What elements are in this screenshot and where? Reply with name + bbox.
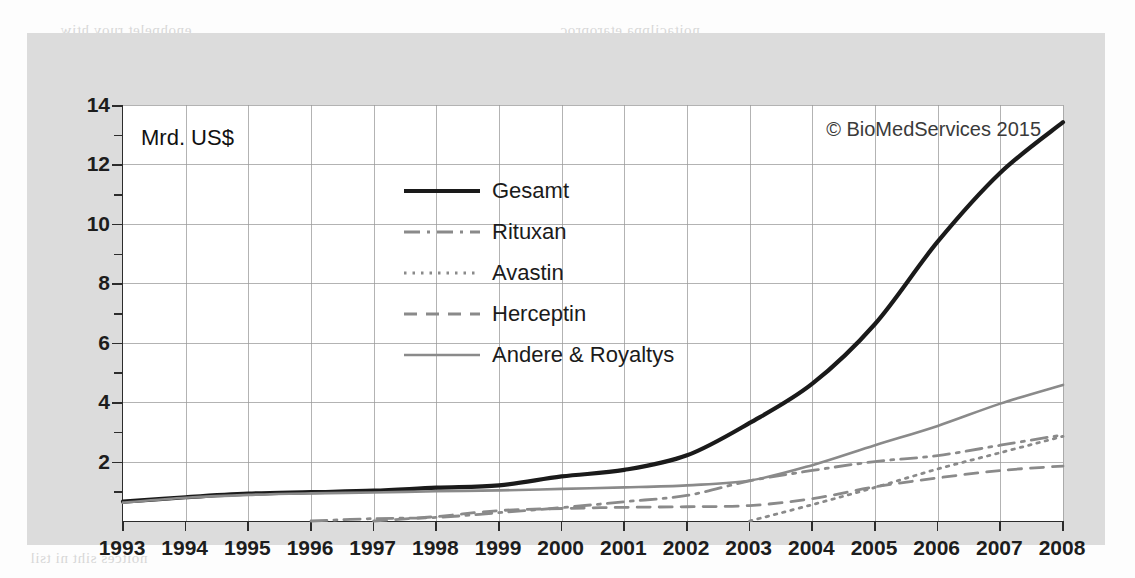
legend-item[interactable]: Andere & Royaltys [404,344,674,366]
x-axis-tick-mark [749,521,751,531]
series-line-herceptin [374,466,1063,521]
x-axis-tick-mark [686,521,688,531]
legend-item-label: Gesamt [492,180,569,202]
x-axis-tick-label: 1997 [338,537,408,558]
legend-line-swatch [404,184,480,198]
x-axis-tick-label: 1995 [212,537,282,558]
legend-line-swatch [404,225,480,239]
x-axis-tick-label: 2004 [776,537,846,558]
legend-item-label: Herceptin [492,303,586,325]
x-axis-tick-mark [1062,521,1064,531]
y-axis-minor-tick-mark [114,491,122,493]
x-axis-tick-label: 1993 [87,537,157,558]
y-axis-minor-tick-mark [114,372,122,374]
x-axis-tick-mark [435,521,437,531]
x-axis-tick-mark [185,521,187,531]
x-axis-tick-label: 2005 [839,537,909,558]
y-axis-tick-label: 2 [66,451,110,472]
legend-item-label: Avastin [492,262,564,284]
y-axis-tick-label: 14 [66,94,110,115]
gridline-vertical [1063,105,1064,521]
y-axis-tick-label: 8 [66,272,110,293]
x-axis-tick-label: 2001 [588,537,658,558]
legend-item[interactable]: Gesamt [404,180,674,202]
x-axis-tick-mark [623,521,625,531]
x-axis-tick-label: 2000 [526,537,596,558]
x-axis-tick-mark [999,521,1001,531]
x-axis-tick-label: 1996 [275,537,345,558]
x-axis-tick-mark [937,521,939,531]
x-axis-tick-mark [122,521,124,531]
series-line-andere-royaltys [123,385,1063,503]
y-axis-tick-label: 12 [66,153,110,174]
legend-item-label: Rituxan [492,221,567,243]
x-axis-tick-label: 1994 [150,537,220,558]
legend-line-swatch [404,348,480,362]
y-axis-minor-tick-mark [114,135,122,137]
x-axis-tick-label: 2008 [1027,537,1097,558]
copyright-notice: © BioMedServices 2015 [826,118,1041,141]
legend-item[interactable]: Avastin [404,262,674,284]
x-axis-tick-mark [310,521,312,531]
x-axis-tick-label: 2007 [964,537,1034,558]
x-axis-tick-mark [498,521,500,531]
y-axis-minor-tick-mark [114,194,122,196]
y-axis-minor-tick-mark [114,432,122,434]
legend-item[interactable]: Rituxan [404,221,674,243]
x-axis-tick-mark [247,521,249,531]
scanned-page: noitacilppa etaroproc enohpelet ruoy hti… [0,0,1135,578]
x-axis-tick-label: 1999 [463,537,533,558]
legend-item[interactable]: Herceptin [404,303,674,325]
y-axis-tick-label: 10 [66,213,110,234]
x-axis-tick-label: 1998 [400,537,470,558]
y-axis-unit-label: Mrd. US$ [141,125,234,151]
y-axis-tick-label: 6 [66,332,110,353]
legend-line-swatch [404,307,480,321]
chart-figure-panel: 2468101214 19931994199519961997199819992… [27,33,1105,545]
legend-item-label: Andere & Royaltys [492,344,674,366]
x-axis-tick-label: 2006 [902,537,972,558]
x-axis-tick-mark [811,521,813,531]
plot-area: Mrd. US$ © BioMedServices 2015 GesamtRit… [122,105,1063,522]
x-axis-tick-mark [561,521,563,531]
x-axis-tick-label: 2003 [714,537,784,558]
y-axis-minor-tick-mark [114,254,122,256]
y-axis-minor-tick-mark [114,313,122,315]
legend-line-swatch [404,266,480,280]
series-line-avastin [750,436,1063,521]
y-axis-tick-label: 4 [66,391,110,412]
x-axis-tick-mark [874,521,876,531]
x-axis-tick-mark [373,521,375,531]
x-axis-tick-label: 2002 [651,537,721,558]
chart-legend: GesamtRituxanAvastinHerceptinAndere & Ro… [404,180,674,366]
